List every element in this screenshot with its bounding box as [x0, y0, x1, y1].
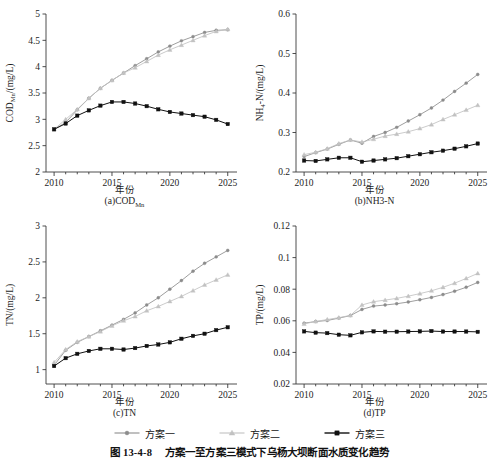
- chart-d-caption-text: (d)TP: [363, 408, 385, 418]
- data-point-marker: [465, 286, 468, 289]
- data-point-marker: [145, 104, 148, 107]
- chart-a-caption: (a)CODMn: [0, 196, 249, 208]
- data-point-marker: [203, 115, 206, 118]
- axis-lines: [46, 226, 237, 384]
- chart-a-plot: 22.533.544.552010201520202025CODMn/(mg/L…: [0, 0, 249, 196]
- data-point-marker: [226, 273, 230, 277]
- legend-item-0[interactable]: 方案一: [114, 426, 175, 441]
- data-point-marker: [191, 334, 194, 337]
- legend-marker-square-icon: [324, 428, 350, 438]
- data-point-marker: [430, 151, 433, 154]
- y-tick-label: 0.5: [278, 49, 290, 59]
- data-point-marker: [226, 27, 230, 31]
- data-point-marker: [314, 331, 317, 334]
- series-2: [52, 273, 230, 364]
- y-axis-title: TN/(mg/L): [5, 284, 16, 326]
- data-point-marker: [157, 343, 160, 346]
- data-point-marker: [337, 333, 340, 336]
- y-tick-label: 1: [35, 365, 40, 375]
- axis-lines: [46, 14, 237, 172]
- series-3: [52, 100, 229, 131]
- data-point-marker: [407, 330, 410, 333]
- data-point-marker: [314, 159, 317, 162]
- data-point-marker: [168, 45, 171, 48]
- y-tick-label: 4.5: [28, 36, 40, 46]
- data-point-marker: [442, 99, 445, 102]
- series-1: [53, 249, 230, 367]
- data-point-marker: [226, 122, 229, 125]
- chart-d-xaxis-label: 年份: [250, 394, 499, 408]
- legend-item-2[interactable]: 方案三: [324, 426, 385, 441]
- y-tick-label: 0.6: [278, 9, 290, 19]
- data-point-marker: [133, 102, 136, 105]
- chart-a-caption-sub: Mn: [135, 201, 144, 208]
- data-point-marker: [125, 431, 129, 435]
- data-point-marker: [476, 73, 479, 76]
- data-point-marker: [335, 431, 339, 435]
- y-axis-title-group: CODMn/(mg/L): [5, 64, 16, 123]
- chart-d-plot: 0.020.040.060.080.10.122010201520202025T…: [250, 212, 499, 408]
- y-tick-label: 3: [35, 221, 40, 231]
- data-point-marker: [464, 145, 467, 148]
- data-point-marker: [64, 356, 67, 359]
- figure-caption-number: 图 13-4-8: [110, 447, 152, 458]
- data-point-marker: [145, 344, 148, 347]
- data-point-marker: [215, 255, 218, 258]
- chart-legend: 方案一 方案二 方案三: [0, 424, 499, 442]
- data-point-marker: [157, 108, 160, 111]
- y-tick-label: 4: [35, 62, 40, 72]
- series-line: [54, 327, 228, 366]
- data-point-marker: [464, 330, 467, 333]
- data-point-marker: [302, 159, 305, 162]
- data-point-marker: [52, 364, 55, 367]
- data-point-marker: [64, 122, 67, 125]
- data-point-marker: [442, 293, 445, 296]
- data-point-marker: [360, 160, 363, 163]
- data-point-marker: [214, 118, 217, 121]
- chart-c-caption-text: (c)TN: [113, 408, 136, 418]
- data-point-marker: [168, 288, 171, 291]
- series-3: [302, 142, 479, 164]
- data-point-marker: [476, 281, 479, 284]
- chart-panel-a: 22.533.544.552010201520202025CODMn/(mg/L…: [0, 0, 249, 215]
- data-point-marker: [326, 331, 329, 334]
- chart-panel-b: 0.20.30.40.50.62010201520202025NH4-N/(mg…: [250, 0, 499, 215]
- chart-panel-c: 11.522.532010201520202025TN/(mg/L) 年份 (c…: [0, 212, 249, 427]
- data-point-marker: [168, 110, 171, 113]
- data-point-marker: [110, 100, 113, 103]
- data-point-marker: [203, 332, 206, 335]
- data-point-marker: [465, 82, 468, 85]
- y-tick-label: 2.5: [28, 257, 40, 267]
- data-point-marker: [302, 330, 305, 333]
- y-tick-label: 0.02: [273, 379, 290, 389]
- chart-grid: 22.533.544.552010201520202025CODMn/(mg/L…: [0, 0, 499, 420]
- data-point-marker: [76, 352, 79, 355]
- y-tick-label: 2: [35, 167, 40, 177]
- y-tick-label: 0.3: [278, 128, 290, 138]
- y-axis-title: TP/(mg/L): [255, 285, 266, 326]
- data-point-marker: [430, 107, 433, 110]
- data-point-marker: [349, 334, 352, 337]
- series-line: [54, 250, 228, 365]
- series-line: [304, 331, 478, 335]
- chart-panel-d: 0.020.040.060.080.10.122010201520202025T…: [250, 212, 499, 427]
- data-point-marker: [214, 328, 217, 331]
- y-tick-label: 1.5: [28, 329, 40, 339]
- data-point-marker: [418, 113, 421, 116]
- series-1: [303, 281, 480, 325]
- data-point-marker: [203, 262, 206, 265]
- y-tick-label: 0.4: [278, 88, 290, 98]
- chart-a-caption-text: (a)COD: [105, 196, 136, 206]
- data-point-marker: [180, 279, 183, 282]
- legend-item-1[interactable]: 方案二: [219, 426, 280, 441]
- chart-d-caption: (d)TP: [250, 408, 499, 420]
- data-point-marker: [476, 103, 480, 107]
- data-point-marker: [407, 154, 410, 157]
- data-point-marker: [372, 330, 375, 333]
- data-point-marker: [180, 112, 183, 115]
- data-point-marker: [476, 142, 479, 145]
- data-point-marker: [145, 304, 148, 307]
- data-point-marker: [191, 113, 194, 116]
- data-point-marker: [76, 114, 79, 117]
- y-tick-label: 0.04: [273, 348, 290, 358]
